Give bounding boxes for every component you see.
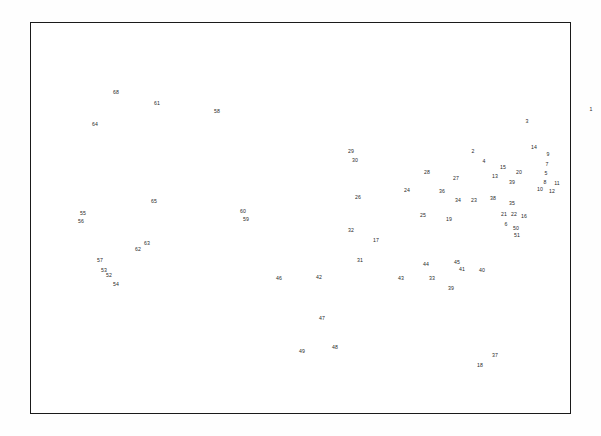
state-number-label: 30 [352,158,358,163]
state-number-label: 59 [243,217,249,222]
state-number-label: 54 [113,282,119,287]
state-number-label: 23 [471,198,477,203]
state-number-label: 8 [544,180,547,185]
state-number-label: 39 [448,286,454,291]
map-page: 1324149715520138111012293028273924363423… [0,0,601,436]
state-number-label: 6 [505,222,508,227]
state-number-label: 47 [319,316,325,321]
state-number-label: 14 [531,145,537,150]
state-number-label: 40 [479,268,485,273]
state-number-label: 41 [459,267,465,272]
state-number-label: 26 [355,195,361,200]
state-number-label: 10 [537,187,543,192]
state-number-label: 20 [516,170,522,175]
state-number-label: 15 [500,165,506,170]
state-number-label: 46 [276,276,282,281]
state-number-label: 38 [490,196,496,201]
state-number-label: 57 [97,258,103,263]
state-number-label: 9 [547,152,550,157]
state-number-label: 45 [454,260,460,265]
state-number-label: 60 [240,209,246,214]
state-number-label: 32 [348,228,354,233]
state-number-label: 22 [511,212,517,217]
state-number-label: 18 [477,363,483,368]
state-number-label: 34 [455,198,461,203]
state-number-label: 24 [404,188,410,193]
state-number-label: 51 [514,233,520,238]
state-number-label: 12 [549,189,555,194]
state-number-label: 31 [357,258,363,263]
state-number-label: 55 [80,211,86,216]
state-number-label: 19 [446,217,452,222]
state-number-label: 56 [78,219,84,224]
state-number-label: 43 [398,276,404,281]
state-number-label: 62 [135,247,141,252]
state-number-label: 64 [92,122,98,127]
state-number-label: 29 [348,149,354,154]
state-number-label: 3 [526,119,529,124]
state-number-label: 28 [424,170,430,175]
state-number-label: 35 [509,201,515,206]
map-frame: 1324149715520138111012293028273924363423… [30,22,571,414]
state-number-label: 16 [521,214,527,219]
state-number-label: 58 [214,109,220,114]
state-number-label: 1 [590,107,593,112]
state-number-label: 52 [106,273,112,278]
state-number-label: 49 [299,349,305,354]
state-number-label: 42 [316,275,322,280]
state-number-label: 61 [154,101,160,106]
state-number-label: 48 [332,345,338,350]
state-number-label: 17 [373,238,379,243]
state-number-label: 65 [151,199,157,204]
state-number-label: 4 [483,159,486,164]
state-number-label: 39 [509,180,515,185]
state-number-label: 63 [144,241,150,246]
state-number-label: 2 [472,149,475,154]
state-number-label: 36 [439,189,445,194]
state-number-label: 68 [113,90,119,95]
state-number-label: 21 [501,212,507,217]
state-number-label: 27 [453,176,459,181]
state-number-label: 44 [423,262,429,267]
state-number-label: 50 [513,226,519,231]
state-number-label: 13 [492,174,498,179]
state-number-label: 37 [492,353,498,358]
map-border [30,22,571,414]
state-number-label: 11 [554,181,560,186]
state-number-label: 5 [545,171,548,176]
state-number-label: 7 [546,162,549,167]
state-number-label: 33 [429,276,435,281]
state-number-label: 25 [420,213,426,218]
